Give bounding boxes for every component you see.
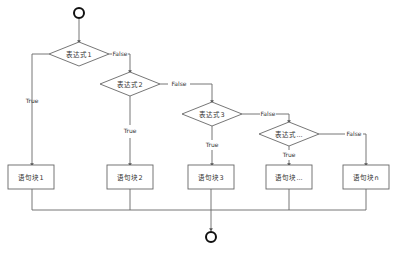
edge-label-false: False: [171, 80, 186, 87]
edge-label-false: False: [260, 110, 275, 117]
statement-block-3[interactable]: 语句块3: [188, 165, 234, 189]
block-label: 语句块3: [198, 173, 223, 182]
block-label: 语句块1: [18, 173, 43, 182]
block-label: 语句块2: [117, 173, 142, 182]
end-node-icon: [206, 232, 216, 242]
edge-label-true: True: [282, 151, 296, 158]
edge-label-false: False: [346, 130, 361, 137]
condition-node-3[interactable]: 表达式3: [182, 102, 242, 126]
statement-block-4[interactable]: 语句块...: [266, 165, 312, 189]
start-node-icon: [74, 8, 84, 18]
condition-label: 表达式2: [117, 80, 142, 89]
flowchart-canvas: 表达式1 表达式2 表达式3 表达式... 语句块1 语句块2 语句块3 语句块…: [0, 0, 394, 255]
condition-node-2[interactable]: 表达式2: [100, 72, 160, 96]
condition-node-4[interactable]: 表达式...: [259, 122, 319, 146]
edge-label-false: False: [112, 50, 127, 57]
edge-label-true: True: [123, 127, 137, 134]
edge-label-true: True: [25, 97, 39, 104]
statement-block-1[interactable]: 语句块1: [8, 165, 54, 189]
condition-label: 表达式1: [66, 50, 91, 59]
condition-label: 表达式3: [199, 110, 224, 119]
statement-block-5[interactable]: 语句块n: [343, 165, 389, 189]
condition-label: 表达式...: [275, 130, 302, 139]
statement-block-2[interactable]: 语句块2: [107, 165, 153, 189]
block-label: 语句块n: [353, 173, 378, 182]
condition-node-1[interactable]: 表达式1: [49, 42, 109, 66]
edge-label-true: True: [205, 141, 219, 148]
flowchart-svg: 表达式1 表达式2 表达式3 表达式... 语句块1 语句块2 语句块3 语句块…: [0, 0, 394, 255]
block-label: 语句块...: [275, 173, 302, 182]
